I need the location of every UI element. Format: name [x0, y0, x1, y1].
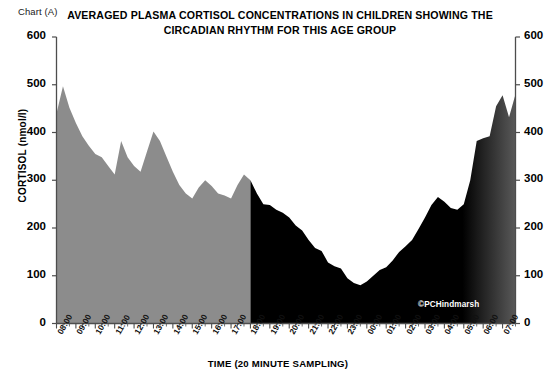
y-axis-title: CORTISOL (nmol/l): [17, 76, 28, 236]
night-area: [250, 94, 515, 323]
y-tick-label-right: 300: [524, 172, 556, 184]
day-area: [57, 86, 251, 323]
chart-title-line-2: CIRCADIAN RHYTHM FOR THIS AGE GROUP: [62, 23, 498, 38]
y-tick-label-left: 600: [12, 29, 46, 41]
cortisol-circadian-chart: Chart (A) AVERAGED PLASMA CORTISOL CONCE…: [0, 0, 556, 378]
chart-title-line-1: AVERAGED PLASMA CORTISOL CONCENTRATIONS …: [67, 9, 493, 21]
chart-label: Chart (A): [18, 6, 57, 17]
chart-title: AVERAGED PLASMA CORTISOL CONCENTRATIONS …: [62, 8, 498, 37]
y-tick-label-right: 0: [524, 316, 556, 328]
x-axis-title: TIME (20 MINUTE SAMPLING): [0, 358, 556, 369]
y-tick-label-left: 100: [12, 268, 46, 280]
data-areas: [57, 86, 516, 323]
y-tick-label-left: 0: [12, 316, 46, 328]
watermark: ©PCHindmarsh: [418, 300, 479, 309]
y-tick-label-left: 300: [12, 172, 46, 184]
y-tick-label-left: 400: [12, 125, 46, 137]
y-tick-label-right: 400: [524, 125, 556, 137]
y-tick-label-right: 600: [524, 29, 556, 41]
y-tick-label-right: 200: [524, 220, 556, 232]
y-tick-label-left: 500: [12, 77, 46, 89]
y-tick-label-left: 200: [12, 220, 46, 232]
y-tick-label-right: 500: [524, 77, 556, 89]
y-tick-label-right: 100: [524, 268, 556, 280]
